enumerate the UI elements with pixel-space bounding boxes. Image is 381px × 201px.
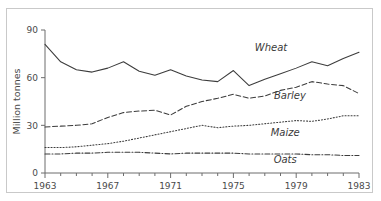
series-label-barley: Barley bbox=[274, 90, 307, 101]
y-tick-label: 0 bbox=[32, 168, 38, 178]
x-tick-label: 1967 bbox=[96, 181, 119, 191]
y-axis-title: Million tonnes bbox=[11, 68, 22, 134]
line-chart: 0306090Million tonnes1963196719711975197… bbox=[0, 0, 381, 201]
series-line-maize bbox=[45, 116, 359, 148]
y-tick-label: 90 bbox=[27, 25, 39, 35]
series-label-oats: Oats bbox=[274, 154, 297, 165]
x-tick-label: 1983 bbox=[348, 181, 371, 191]
y-tick-label: 30 bbox=[27, 121, 39, 131]
series-label-maize: Maize bbox=[271, 127, 300, 138]
x-tick-label: 1975 bbox=[222, 181, 245, 191]
series-line-barley bbox=[45, 82, 359, 127]
series-label-wheat: Wheat bbox=[255, 42, 289, 53]
y-tick-label: 60 bbox=[27, 73, 39, 83]
series-line-wheat bbox=[45, 44, 359, 85]
x-tick-label: 1979 bbox=[285, 181, 308, 191]
x-tick-label: 1963 bbox=[34, 181, 57, 191]
x-tick-label: 1971 bbox=[159, 181, 182, 191]
figure-container: 0306090Million tonnes1963196719711975197… bbox=[0, 0, 381, 201]
series-line-oats bbox=[45, 152, 359, 155]
